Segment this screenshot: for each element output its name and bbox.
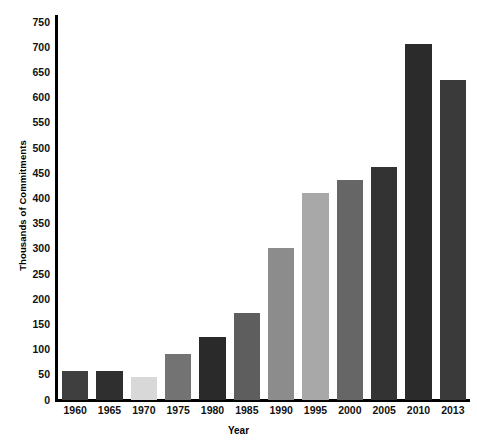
y-axis-tick: 550: [16, 117, 50, 128]
x-axis-tick: 2005: [367, 404, 401, 416]
x-axis-tick: 1995: [298, 404, 332, 416]
bar: [302, 193, 328, 400]
y-axis-tick-labels: 7507006506005505004504003503002502001501…: [8, 0, 50, 448]
bar: [440, 80, 466, 400]
x-axis-tick: 1970: [127, 404, 161, 416]
bar: [337, 180, 363, 400]
x-axis-tick: 1990: [264, 404, 298, 416]
y-axis-tick: 500: [16, 143, 50, 154]
bar: [96, 371, 122, 400]
bar: [62, 371, 88, 400]
y-axis-tick: 50: [16, 369, 50, 380]
y-axis-tick: 250: [16, 269, 50, 280]
x-axis-tick: 2013: [436, 404, 470, 416]
bar: [405, 44, 431, 400]
y-axis-tick: 350: [16, 218, 50, 229]
bar: [199, 337, 225, 401]
x-axis-tick-labels: 1960196519701975198019851990199520002005…: [58, 404, 470, 420]
x-axis-title: Year: [0, 425, 477, 436]
y-axis-tick: 600: [16, 92, 50, 103]
y-axis-tick: 300: [16, 243, 50, 254]
x-axis-tick: 1965: [92, 404, 126, 416]
y-axis-tick: 400: [16, 193, 50, 204]
y-axis-tick: 0: [16, 395, 50, 406]
x-axis-tick: 1985: [230, 404, 264, 416]
x-axis-tick: 2000: [333, 404, 367, 416]
x-axis-tick: 1975: [161, 404, 195, 416]
y-axis-tick: 650: [16, 67, 50, 78]
y-axis-tick: 100: [16, 344, 50, 355]
bar: [165, 354, 191, 400]
y-axis-tick: 700: [16, 42, 50, 53]
bar: [131, 377, 157, 400]
bar: [371, 167, 397, 400]
x-axis-tick: 1960: [58, 404, 92, 416]
bar: [268, 248, 294, 400]
x-axis-tick: 2010: [401, 404, 435, 416]
x-axis-tick: 1980: [195, 404, 229, 416]
y-axis-tick: 450: [16, 168, 50, 179]
y-axis-tick: 150: [16, 319, 50, 330]
plot-area: [58, 22, 470, 400]
bar-chart: Thousands of Commitments 750700650600550…: [0, 0, 477, 448]
y-axis-tick: 200: [16, 294, 50, 305]
y-axis-tick: 750: [16, 17, 50, 28]
bar: [234, 313, 260, 400]
